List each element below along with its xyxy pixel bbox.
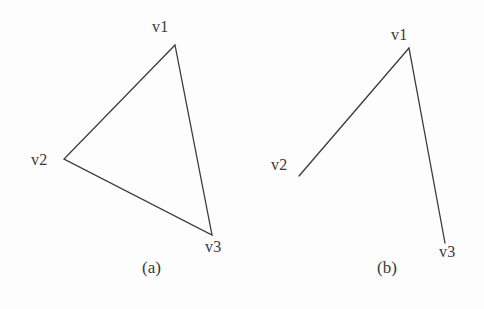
polyline-outline xyxy=(299,48,445,243)
vertex-label-v3: v3 xyxy=(205,239,221,255)
triangle-outline xyxy=(64,45,212,235)
panel-caption-b: (b) xyxy=(377,259,397,276)
polyline-open-diagram xyxy=(242,0,484,309)
panel-b: v1 v2 v3 (b) xyxy=(242,0,484,309)
vertex-label-v3: v3 xyxy=(439,244,455,260)
vertex-label-v1: v1 xyxy=(152,19,168,35)
figure-container: v1 v2 v3 (a) v1 v2 v3 (b) xyxy=(0,0,484,309)
vertex-label-v2: v2 xyxy=(31,152,47,168)
panel-a: v1 v2 v3 (a) xyxy=(0,0,242,309)
vertex-label-v1: v1 xyxy=(391,27,407,43)
panel-caption-a: (a) xyxy=(142,259,161,276)
vertex-label-v2: v2 xyxy=(271,157,287,173)
